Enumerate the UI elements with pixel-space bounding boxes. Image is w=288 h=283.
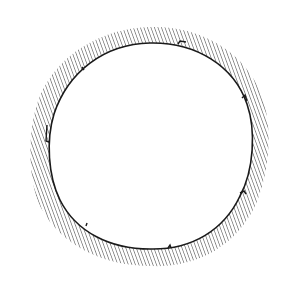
hatched-ring-diagram [0, 0, 288, 283]
hatched-ring [0, 0, 288, 283]
notch-lower-left [86, 223, 87, 226]
